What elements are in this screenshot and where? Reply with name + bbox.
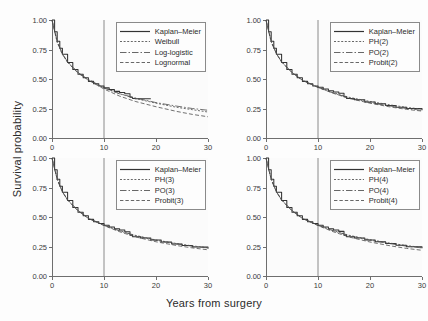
legend-label: PH(2) [369, 37, 389, 46]
legend-label: Kaplan–Meier [369, 27, 415, 36]
legend-line-icon [120, 187, 150, 194]
chart-panel-top-left: 0.000.250.500.751.000102030Kaplan–MeierW… [52, 20, 208, 138]
x-tick [208, 139, 209, 142]
legend-label: Probit(2) [369, 58, 398, 67]
legend-line-icon [334, 49, 364, 56]
legend-item: Log-logistic [120, 47, 201, 58]
y-tick-label: 1.00 [246, 154, 261, 163]
y-tick-label: 0.50 [32, 213, 47, 222]
x-tick [422, 139, 423, 142]
x-tick-label: 10 [314, 281, 322, 290]
x-axis-line [52, 138, 208, 139]
legend-top-right: Kaplan–MeierPH(2)PO(2)Probit(2) [330, 22, 420, 72]
legend-line-icon [120, 197, 150, 204]
legend-line-icon [334, 38, 364, 45]
survival-curves-figure: Survival probability Years from surgery … [0, 0, 428, 321]
y-tick-label: 0.25 [246, 242, 261, 251]
x-tick [156, 277, 157, 280]
panel-grid: 0.000.250.500.751.000102030Kaplan–MeierW… [0, 0, 428, 321]
y-tick-label: 0.00 [32, 272, 47, 281]
legend-item: PO(3) [120, 185, 201, 196]
legend-bottom-right: Kaplan–MeierPH(4)PO(4)Probit(4) [330, 160, 420, 210]
legend-line-icon [334, 176, 364, 183]
legend-line-icon [334, 187, 364, 194]
x-tick [318, 139, 319, 142]
chart-panel-bottom-left: 0.000.250.500.751.000102030Kaplan–MeierP… [52, 158, 208, 276]
y-tick-label: 0.75 [32, 45, 47, 54]
x-tick-label: 20 [366, 281, 374, 290]
legend-item: Kaplan–Meier [334, 164, 415, 175]
y-tick-label: 0.25 [32, 104, 47, 113]
y-tick-label: 0.50 [32, 75, 47, 84]
legend-line-icon [120, 176, 150, 183]
legend-line-icon [334, 197, 364, 204]
y-tick-label: 0.50 [246, 75, 261, 84]
legend-bottom-left: Kaplan–MeierPH(3)PO(3)Probit(3) [116, 160, 206, 210]
legend-item: Kaplan–Meier [120, 26, 201, 37]
x-tick-label: 10 [314, 143, 322, 152]
legend-label: PH(4) [369, 175, 389, 184]
legend-line-icon [120, 166, 150, 173]
y-tick-label: 0.50 [246, 213, 261, 222]
x-tick [370, 277, 371, 280]
x-tick [52, 139, 53, 142]
x-tick [104, 139, 105, 142]
y-tick-label: 0.75 [32, 183, 47, 192]
legend-label: Weibull [155, 37, 179, 46]
legend-label: Kaplan–Meier [155, 27, 201, 36]
legend-label: PO(3) [155, 186, 175, 195]
x-tick-label: 0 [264, 143, 268, 152]
legend-item: PH(3) [120, 175, 201, 186]
x-tick-label: 10 [100, 143, 108, 152]
chart-panel-bottom-right: 0.000.250.500.751.000102030Kaplan–MeierP… [266, 158, 422, 276]
x-axis-line [266, 138, 422, 139]
y-tick-label: 0.25 [32, 242, 47, 251]
x-tick-label: 10 [100, 281, 108, 290]
y-tick-label: 1.00 [32, 16, 47, 25]
x-tick [104, 277, 105, 280]
y-tick-label: 0.75 [246, 183, 261, 192]
legend-item: Kaplan–Meier [120, 164, 201, 175]
x-tick [52, 277, 53, 280]
x-tick [266, 139, 267, 142]
x-tick-label: 30 [204, 143, 212, 152]
x-tick [208, 277, 209, 280]
legend-item: PH(2) [334, 37, 415, 48]
y-tick-label: 0.00 [246, 272, 261, 281]
x-tick [318, 277, 319, 280]
x-tick-label: 20 [366, 143, 374, 152]
x-tick-label: 0 [264, 281, 268, 290]
x-tick-label: 30 [418, 143, 426, 152]
legend-label: Log-logistic [155, 48, 193, 57]
legend-line-icon [334, 28, 364, 35]
x-tick [422, 277, 423, 280]
legend-label: PO(4) [369, 186, 389, 195]
legend-item: Probit(3) [120, 196, 201, 207]
y-tick-label: 1.00 [246, 16, 261, 25]
y-tick-label: 1.00 [32, 154, 47, 163]
legend-line-icon [120, 38, 150, 45]
x-axis-line [52, 276, 208, 277]
legend-line-icon [120, 28, 150, 35]
legend-item: Kaplan–Meier [334, 26, 415, 37]
x-tick-label: 0 [50, 281, 54, 290]
legend-item: Lognormal [120, 58, 201, 69]
legend-top-left: Kaplan–MeierWeibullLog-logisticLognormal [116, 22, 206, 72]
legend-label: PO(2) [369, 48, 389, 57]
legend-label: Probit(4) [369, 196, 398, 205]
x-tick-label: 30 [204, 281, 212, 290]
legend-line-icon [334, 166, 364, 173]
legend-item: Weibull [120, 37, 201, 48]
legend-label: Lognormal [155, 58, 190, 67]
x-tick [370, 139, 371, 142]
legend-item: PH(4) [334, 175, 415, 186]
legend-item: PO(2) [334, 47, 415, 58]
x-tick-label: 30 [418, 281, 426, 290]
legend-line-icon [120, 59, 150, 66]
legend-item: PO(4) [334, 185, 415, 196]
legend-line-icon [120, 49, 150, 56]
legend-line-icon [334, 59, 364, 66]
legend-label: Probit(3) [155, 196, 184, 205]
x-tick-label: 20 [152, 143, 160, 152]
legend-label: PH(3) [155, 175, 175, 184]
